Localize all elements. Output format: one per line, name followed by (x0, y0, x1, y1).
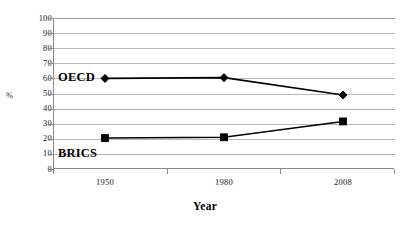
gridline (54, 78, 395, 79)
gridline (54, 18, 395, 19)
gridline (54, 94, 395, 95)
y-tick-label: 90 (12, 29, 52, 38)
y-tick-label: 100 (12, 14, 52, 23)
y-tick-label: 60 (12, 74, 52, 83)
gridline (54, 48, 395, 49)
y-tick-label: 20 (12, 134, 52, 143)
x-tick-label: 1980 (194, 177, 254, 187)
y-tick-label: 40 (12, 104, 52, 113)
x-tick-mark (394, 169, 395, 174)
x-tick-mark (280, 169, 281, 174)
series-label-oecd: OECD (58, 70, 95, 85)
series-label-brics: BRICS (58, 146, 97, 161)
plot-area (53, 18, 394, 169)
y-tick-label: 70 (12, 59, 52, 68)
gridline (54, 33, 395, 34)
gridline (54, 63, 395, 64)
x-tick-mark (167, 169, 168, 174)
y-tick-label: 50 (12, 89, 52, 98)
y-tick-label: 10 (12, 149, 52, 158)
gridline (54, 124, 395, 125)
line-chart: % 0102030405060708090100 195019802008 OE… (0, 0, 410, 229)
y-tick-label: 0 (12, 165, 52, 174)
y-tick-label: 80 (12, 44, 52, 53)
y-tick-label: 30 (12, 119, 52, 128)
gridline (54, 154, 395, 155)
gridline (54, 139, 395, 140)
x-tick-label: 2008 (313, 177, 373, 187)
gridline (54, 109, 395, 110)
x-tick-mark (53, 169, 54, 174)
x-tick-label: 1950 (75, 177, 135, 187)
x-axis-title: Year (0, 200, 410, 212)
